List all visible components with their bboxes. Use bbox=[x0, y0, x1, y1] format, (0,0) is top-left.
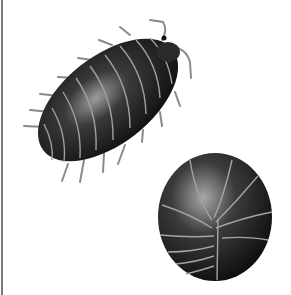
eye bbox=[162, 36, 167, 41]
head bbox=[156, 42, 180, 62]
illustration-frame bbox=[0, 0, 291, 295]
pillbug-illustration bbox=[0, 0, 291, 295]
pillbug-rolled bbox=[158, 153, 272, 281]
pillbug-extended bbox=[16, 15, 199, 185]
